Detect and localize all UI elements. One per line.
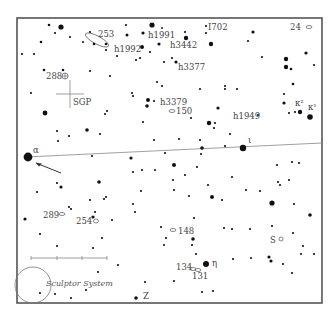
star-icon [173,280,175,282]
galaxy-icon [169,110,175,113]
star-icon [184,31,186,33]
star-icon [210,195,214,199]
star-icon [276,164,278,166]
star-icon [160,226,162,228]
star-icon [97,180,101,184]
star-icon [308,213,312,217]
star-icon [277,181,279,183]
star-icon [288,112,290,114]
star-icon [200,146,204,150]
star-icon [191,244,193,246]
star-icon [288,179,290,181]
star-icon [139,57,141,59]
star-icon [149,51,151,53]
cluster-icon [279,237,283,241]
star-icon [82,41,84,43]
galaxy-icon [170,229,176,232]
star-icon [144,281,146,283]
star-icon [39,292,41,294]
star-icon [43,111,48,116]
star-label: 131 [192,271,208,281]
star-icon [163,61,165,63]
star-icon [302,245,304,247]
galaxy-icon [59,213,65,216]
star-icon [199,139,201,141]
star-icon [56,130,58,132]
star-icon [291,272,293,274]
ecliptic-line [26,143,322,157]
star-label: h3442 [170,40,197,50]
star-icon [43,69,46,72]
star-icon [203,261,209,267]
star-icon [48,24,51,27]
star-icon [221,199,223,201]
star-icon [140,190,142,192]
star-icon [129,156,132,159]
star-label: h1991 [148,30,175,40]
star-icon [54,32,56,34]
star-icon [229,133,231,135]
star-icon [313,253,315,255]
star-icon [146,98,150,102]
star-icon [251,30,254,33]
star-labels: 253h1991I70224h1992h3442288h3377SGPh3379… [33,22,317,301]
star-icon [59,185,62,188]
star-icon [101,237,103,239]
star-icon [40,41,43,44]
star-icon [195,253,197,255]
star-icon [216,106,219,109]
star-icon [232,258,234,260]
star-icon [190,117,192,119]
star-icon [292,232,294,234]
star-icon [207,121,211,125]
star-icon [94,211,96,213]
star-icon [267,255,270,258]
star-icon [93,43,96,46]
star-icon [199,88,201,90]
star-icon [105,49,107,51]
star-icon [89,31,91,33]
star-icon [300,253,302,255]
star-icon [56,182,58,184]
star-icon [279,184,281,186]
star-label: 288 [46,71,62,81]
star-icon [224,88,226,90]
star-label: ι [248,135,251,145]
star-icon [173,189,175,191]
star-icon [172,179,174,181]
star-label: Z [143,291,149,301]
star-icon [249,228,251,230]
star-icon [247,40,249,42]
star-icon [209,42,213,46]
star-icon [21,53,23,55]
star-label: η [212,258,217,268]
star-icon [207,184,209,186]
star-icon [145,104,149,108]
star-icon [294,111,296,113]
star-icon [134,211,136,213]
star-icon [163,244,165,246]
star-icon [291,161,293,163]
star-icon [134,296,138,300]
star-icon [85,289,87,291]
star-icon [111,219,113,221]
star-label: 24 [290,22,301,32]
star-icon [290,68,293,71]
star-label: 253 [98,29,114,39]
star-icon [141,169,143,171]
star-icon [91,155,93,157]
star-icon [172,163,176,167]
star-icon [105,43,108,46]
star-icon [213,127,215,129]
star-icon [307,114,313,120]
star-icon [24,153,33,162]
star-icon [245,189,247,191]
star-icon [105,196,107,198]
star-label: h1949 [233,111,260,121]
star-icon [132,203,134,205]
star-icon [200,153,202,155]
star-icon [259,190,261,192]
star-icon [283,93,285,95]
star-label: 134 [176,262,192,272]
star-icon [224,145,226,147]
